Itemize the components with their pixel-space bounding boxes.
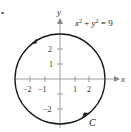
y-tick-label: −2: [43, 105, 52, 114]
x-tick-label: 1: [73, 85, 77, 94]
circle-equation: x2 + y2 = 9: [74, 18, 113, 29]
y-axis-label: y: [56, 7, 61, 17]
curve-label: C: [89, 117, 96, 128]
y-tick-label: 2: [48, 45, 52, 54]
x-tick-label: 2: [87, 85, 91, 94]
circle-diagram: • x y −2 −1 1 2 2 1 −2 x2 + y2 = 9 C: [0, 0, 131, 132]
x-axis-label: x: [120, 74, 125, 84]
bullet-marker: •: [1, 8, 4, 18]
y-tick-label: 1: [49, 60, 53, 69]
x-tick-label: −2: [23, 85, 32, 94]
x-tick-label: −1: [38, 85, 47, 94]
